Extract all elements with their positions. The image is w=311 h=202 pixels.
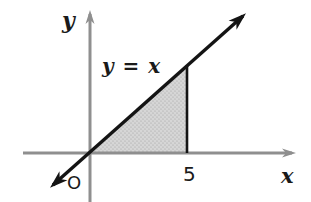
line-y-equals-x xyxy=(53,16,243,185)
math-figure: y x y = x 5 O xyxy=(0,0,311,202)
origin-label: O xyxy=(67,174,81,192)
y-axis-label: y xyxy=(62,9,75,31)
x-tick-label-5: 5 xyxy=(183,164,196,184)
axes-plot xyxy=(0,0,311,202)
x-axis-label: x xyxy=(281,165,294,186)
line-equation-label: y = x xyxy=(102,56,161,76)
